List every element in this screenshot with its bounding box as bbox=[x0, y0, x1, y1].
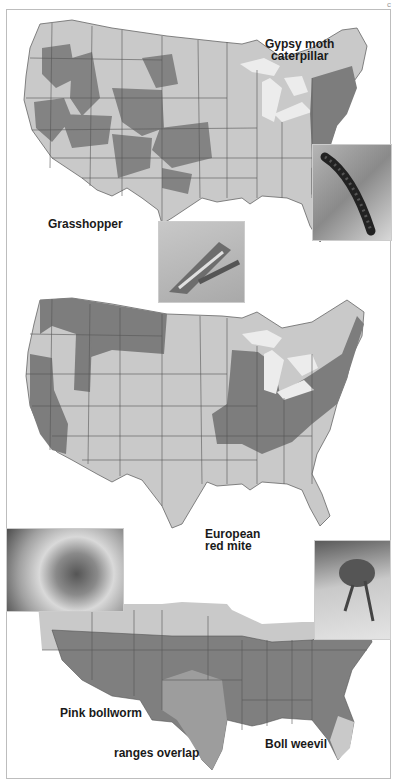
grasshopper-photo bbox=[158, 221, 245, 303]
label-line: caterpillar bbox=[265, 50, 334, 62]
label-line: red mite bbox=[205, 540, 260, 552]
label-grasshopper: Grasshopper bbox=[48, 218, 123, 230]
boll-weevil-icon bbox=[315, 541, 390, 639]
label-boll-weevil: Boll weevil bbox=[265, 738, 327, 750]
caterpillar-icon bbox=[313, 145, 391, 240]
grasshopper-icon bbox=[159, 222, 244, 302]
map-european-red-mite bbox=[12, 294, 392, 534]
label-european-red-mite: European red mite bbox=[205, 528, 260, 552]
caterpillar-photo bbox=[312, 144, 392, 241]
boll-weevil-photo bbox=[314, 540, 391, 640]
pink-bollworm-photo bbox=[6, 528, 124, 612]
page-marker: c bbox=[387, 0, 391, 9]
label-gypsy-moth: Gypsy moth caterpillar bbox=[265, 38, 334, 62]
label-pink-bollworm: Pink bollworm bbox=[60, 707, 142, 719]
label-ranges-overlap: ranges overlap bbox=[114, 747, 199, 759]
